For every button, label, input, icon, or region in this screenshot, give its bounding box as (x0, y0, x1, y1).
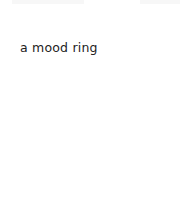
page-title: a mood ring (20, 40, 98, 55)
cut-off-header (0, 0, 186, 5)
cut-off-text-left (12, 0, 84, 4)
cut-off-text-right (140, 0, 180, 4)
